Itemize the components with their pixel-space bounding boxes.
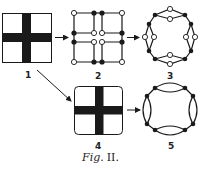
caption-number: II. — [107, 151, 119, 164]
panel-4-label: 4 — [95, 141, 101, 151]
panel-1-square-cross — [3, 14, 52, 63]
panel-1-label: 1 — [25, 70, 31, 80]
panel-3-label: 3 — [167, 71, 173, 81]
figure-canvas: 1 2 — [0, 0, 208, 173]
arrow-1-to-4 — [37, 70, 71, 101]
panel-2-open-nodes — [71, 10, 124, 64]
panel-5-label: 5 — [168, 141, 174, 151]
panel-2-grid-graph — [74, 13, 122, 62]
panel-5-filled-nodes — [145, 86, 196, 133]
panel-3-open-nodes — [142, 6, 197, 66]
caption-prefix: Fig. — [81, 151, 104, 164]
panel-5-ring-graph — [143, 83, 197, 135]
panel-4-rounded-square-cross — [75, 87, 123, 135]
panel-2-label: 2 — [95, 71, 101, 81]
panel-2-filled-nodes — [71, 10, 124, 64]
figure-caption: Fig.II. — [81, 151, 119, 164]
